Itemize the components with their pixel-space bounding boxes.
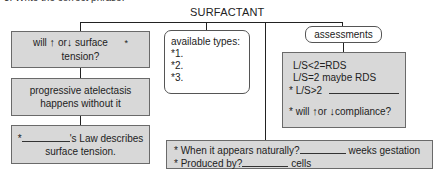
law-box: *'s Law describes surface tension. — [11, 125, 150, 164]
arrow-down-icon: ↓ — [67, 36, 73, 49]
box1-post: surface — [75, 37, 108, 48]
connector-assess-box — [343, 42, 344, 52]
gestation-suffix: weeks gestation — [348, 145, 420, 156]
surface-tension-line2: tension? — [62, 50, 100, 63]
law-blank-field[interactable] — [22, 132, 70, 142]
connector-top-horizontal — [80, 22, 343, 23]
surface-tension-line1: will ↑ or↓ surface * — [33, 36, 128, 50]
box1-star: * — [125, 38, 129, 48]
atelectasis-line1: progressive atelectasis — [30, 84, 132, 97]
law-line2: surface tension. — [45, 145, 116, 158]
compliance-pre: * will — [289, 106, 310, 117]
produced-suffix: cells — [291, 158, 311, 169]
produced-question: * Produced by? — [174, 158, 242, 169]
compliance-line: * will ↑or ↓compliance? — [289, 105, 405, 118]
ls-equal-2: L/S=2 maybe RDS — [293, 72, 405, 84]
law-line1: *'s Law describes — [18, 132, 144, 145]
connector-box1-box2 — [80, 68, 81, 78]
atelectasis-box: progressive atelectasis happens without … — [11, 78, 150, 116]
instruction-text: 3. Write the correct phrase. — [4, 0, 124, 3]
production-box: * When it appears naturally? weeks gesta… — [166, 140, 433, 169]
ls-greater-2: * L/S>2 — [289, 84, 405, 97]
arrow-up-icon: ↑ — [50, 36, 56, 49]
type-item-3: *3. — [171, 72, 249, 84]
type-item-1: *1. — [171, 48, 249, 60]
compliance-post: compliance? — [335, 106, 391, 117]
available-types-box: available types: *1. *2. *3. — [164, 30, 250, 94]
type-item-2: *2. — [171, 60, 249, 72]
box1-pre: will — [33, 37, 47, 48]
connector-left-drop — [80, 22, 81, 31]
gestation-line: * When it appears naturally? weeks gesta… — [174, 144, 432, 157]
compliance-mid: or — [318, 106, 327, 117]
connector-center-drop — [265, 22, 266, 140]
surface-tension-box: will ↑ or↓ surface * tension? — [11, 31, 150, 68]
types-heading: available types: — [171, 36, 249, 48]
gestation-question: * When it appears naturally? — [174, 145, 300, 156]
ls-less-2: L/S<2=RDS — [293, 60, 405, 72]
assessments-box: L/S<2=RDS L/S=2 maybe RDS * L/S>2 * will… — [282, 52, 406, 128]
box1-mid: or — [58, 37, 67, 48]
ls-greater-2-blank[interactable] — [329, 84, 399, 94]
assessments-label: assessments — [314, 29, 372, 41]
law-text: 's Law describes — [70, 133, 144, 144]
connector-box2-box3 — [80, 116, 81, 125]
assessments-label-box: assessments — [305, 26, 382, 43]
connector-types-drop — [206, 22, 207, 30]
produced-line: * Produced by? cells — [174, 157, 432, 170]
atelectasis-line2: happens without it — [40, 97, 121, 110]
ls-greater-2-label: * L/S>2 — [289, 85, 322, 96]
gestation-blank[interactable] — [300, 144, 346, 154]
produced-blank[interactable] — [242, 157, 288, 167]
diagram-title: SURFACTANT — [190, 6, 265, 18]
